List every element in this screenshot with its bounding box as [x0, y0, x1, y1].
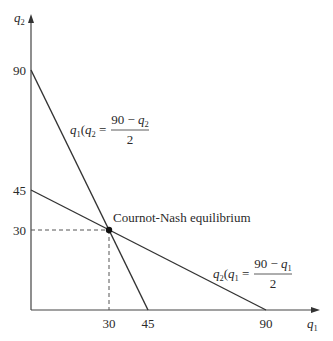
x-axis-arrow-icon [311, 307, 320, 313]
y-tick-90: 90 [13, 63, 26, 78]
y-axis-arrow-icon [28, 14, 34, 23]
x-tick-45: 45 [142, 316, 155, 331]
equilibrium-point [106, 227, 112, 233]
reaction-line-firm1 [31, 70, 148, 310]
y-tick-45: 45 [13, 183, 26, 198]
svg-text:q1(q2 =: q1(q2 = [70, 122, 106, 139]
svg-text:90 − q1: 90 − q1 [254, 256, 292, 273]
reaction-label-firm1: q1(q2 = 90 − q2 2 [70, 112, 149, 147]
svg-text:q2(q1 =: q2(q1 = [213, 266, 249, 283]
reaction-line-firm2 [31, 190, 266, 310]
equilibrium-label: Cournot-Nash equilibrium [113, 210, 251, 225]
svg-text:2: 2 [270, 276, 277, 291]
x-tick-90: 90 [260, 316, 273, 331]
y-axis-label: q2 [14, 10, 25, 27]
x-axis-label: q1 [307, 316, 318, 333]
svg-text:90 − q2: 90 − q2 [111, 112, 149, 129]
x-tick-30: 30 [103, 316, 116, 331]
reaction-label-firm2: q2(q1 = 90 − q1 2 [213, 256, 292, 291]
cournot-diagram: 90 45 30 30 45 90 q2 q1 q1(q2 = 90 − q2 … [0, 0, 333, 341]
y-tick-30: 30 [13, 223, 26, 238]
svg-text:2: 2 [127, 132, 134, 147]
